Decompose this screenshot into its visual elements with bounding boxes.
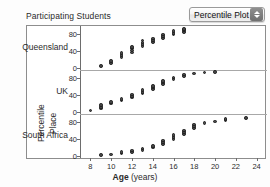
x-axis-title-unit: (years) <box>131 172 157 182</box>
data-point <box>130 45 134 49</box>
x-tick-label: 20 <box>211 162 219 171</box>
y-tick-mark <box>77 68 80 69</box>
x-tick-mark <box>236 158 237 161</box>
x-tick-mark <box>111 158 112 161</box>
data-point <box>224 117 228 121</box>
x-tick-mark <box>257 158 258 161</box>
data-point <box>213 120 217 124</box>
y-tick-mark <box>77 112 80 113</box>
data-point <box>99 153 103 157</box>
x-axis-title-main: Age <box>113 172 129 182</box>
data-point <box>161 79 165 83</box>
data-point <box>120 97 124 101</box>
y-tick-mark <box>77 95 80 96</box>
x-tick-mark <box>174 158 175 161</box>
data-point <box>182 129 186 133</box>
page-title: Participating Students <box>26 11 111 21</box>
x-tick-mark <box>194 158 195 161</box>
data-point <box>130 93 134 97</box>
x-tick-mark <box>90 158 91 161</box>
x-tick-label: 12 <box>128 162 136 171</box>
data-point <box>141 88 145 92</box>
data-point <box>89 109 93 113</box>
up-down-stepper-icon[interactable] <box>250 8 263 21</box>
data-point <box>109 59 113 63</box>
data-point <box>109 153 113 157</box>
data-point <box>99 64 103 68</box>
x-tick-label: 22 <box>232 162 240 171</box>
data-point <box>130 149 134 153</box>
chevron-down-icon <box>254 15 260 18</box>
data-point <box>203 121 207 125</box>
x-tick-label: 10 <box>107 162 115 171</box>
data-point <box>213 70 217 74</box>
x-tick-mark <box>132 158 133 161</box>
data-point <box>244 116 248 120</box>
data-point <box>109 100 113 104</box>
percentile-plot-window: Participating Students Percentile Plot P… <box>0 0 270 187</box>
data-point <box>99 103 103 107</box>
x-axis-title: Age (years) <box>0 172 270 182</box>
data-point <box>151 37 155 41</box>
data-point <box>182 27 186 31</box>
y-tick-mark <box>77 34 80 35</box>
x-tick-label: 16 <box>169 162 177 171</box>
y-tick-mark <box>77 139 80 140</box>
data-point <box>172 133 176 137</box>
data-point <box>203 71 207 75</box>
y-tick-mark <box>77 51 80 52</box>
data-point <box>161 139 165 143</box>
data-point <box>151 144 155 148</box>
x-tick-label: 14 <box>149 162 157 171</box>
plot-type-select[interactable]: Percentile Plot <box>189 7 265 22</box>
x-tick-mark <box>153 158 154 161</box>
panel-uk: UK04080 <box>80 70 267 114</box>
chart-frame: Percentile Place Queensland04080UK04080S… <box>26 25 266 159</box>
y-tick-mark <box>77 78 80 79</box>
data-point <box>182 73 186 77</box>
y-tick-mark <box>77 156 80 157</box>
x-tick-label: 18 <box>190 162 198 171</box>
chevron-up-icon <box>254 11 260 14</box>
data-point <box>161 33 165 37</box>
data-point <box>192 72 196 76</box>
y-tick-mark <box>77 122 80 123</box>
x-tick-label: 8 <box>88 162 92 171</box>
panel-queensland: Queensland04080 <box>80 26 267 70</box>
data-point <box>151 84 155 88</box>
x-tick-label: 24 <box>252 162 260 171</box>
plot-type-select-value: Percentile Plot <box>190 10 250 20</box>
panel-south-africa: South Africa04080 <box>80 114 267 158</box>
x-tick-mark <box>215 158 216 161</box>
data-point <box>172 29 176 33</box>
